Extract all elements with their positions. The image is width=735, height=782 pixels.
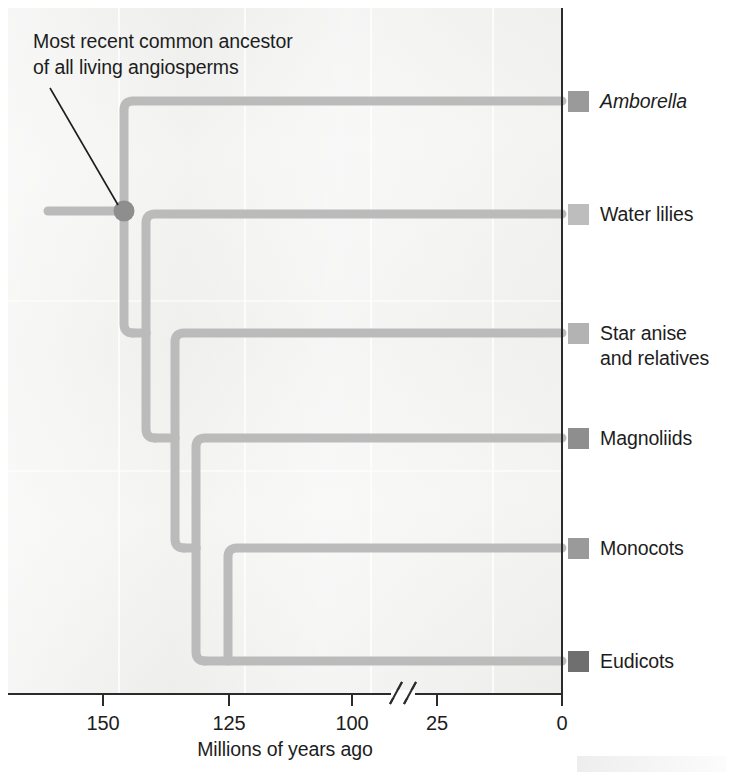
legend-item-eudicots[interactable]: Eudicots: [568, 649, 674, 674]
legend-swatch-amborella: [568, 91, 589, 112]
branch-monocots: [228, 548, 562, 661]
mrca-annotation-line1: Most recent common ancestor: [33, 28, 333, 54]
annotation-leader-line: [50, 88, 118, 205]
figure-canvas: Most recent common ancestor of all livin…: [0, 0, 735, 782]
legend-item-star-anise[interactable]: Star anise and relatives: [568, 321, 709, 371]
x-tick-label-0: 0: [557, 712, 568, 735]
x-axis-ticks: [103, 694, 562, 706]
legend-label-amborella: Amborella: [600, 89, 687, 114]
tree-branches: [48, 101, 562, 661]
legend-label-water-lilies: Water lilies: [600, 202, 693, 227]
mrca-annotation: Most recent common ancestor of all livin…: [33, 28, 333, 80]
legend-swatch-monocots: [568, 538, 589, 559]
branch-amborella: [124, 101, 562, 211]
x-tick-label-25: 25: [426, 712, 448, 735]
x-tick-label-125: 125: [213, 712, 246, 735]
legend-swatch-magnoliids: [568, 428, 589, 449]
branch-spine-2: [146, 333, 155, 438]
legend-item-amborella[interactable]: Amborella: [568, 89, 687, 114]
page-bleed-artifact: [577, 756, 727, 772]
x-tick-label-100: 100: [336, 712, 369, 735]
legend-swatch-eudicots: [568, 651, 589, 672]
legend-label-star-anise: Star anise and relatives: [600, 321, 709, 371]
branch-star-anise: [175, 333, 562, 438]
legend-swatch-water-lilies: [568, 204, 589, 225]
x-axis-title: Millions of years ago: [0, 738, 570, 761]
legend-item-magnoliids[interactable]: Magnoliids: [568, 426, 692, 451]
legend-label-eudicots: Eudicots: [600, 649, 674, 674]
legend-swatch-star-anise: [568, 323, 589, 344]
branch-water-lilies: [146, 214, 562, 333]
mrca-annotation-line2: of all living angiosperms: [33, 54, 333, 80]
branch-magnoliids: [196, 438, 562, 548]
branch-spine-1: [124, 211, 133, 333]
x-tick-label-150: 150: [87, 712, 120, 735]
legend-item-monocots[interactable]: Monocots: [568, 536, 684, 561]
legend-label-magnoliids: Magnoliids: [600, 426, 692, 451]
branch-spine-3: [175, 438, 184, 548]
branch-spine-4: [196, 548, 205, 661]
legend-item-water-lilies[interactable]: Water lilies: [568, 202, 693, 227]
legend-label-monocots: Monocots: [600, 536, 684, 561]
